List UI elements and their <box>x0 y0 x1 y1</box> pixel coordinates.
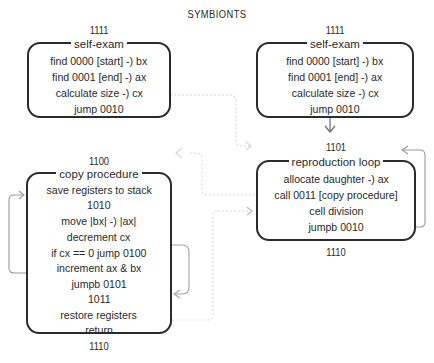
copy-procedure-box: copy procedure save registers to stack 1… <box>26 172 172 334</box>
code-line: if cx == 0 jump 0100 <box>51 246 146 260</box>
dotted-link-selfexam-to-loop <box>170 95 250 146</box>
code-line: calculate size -) cx <box>291 86 378 100</box>
code-line: find 0000 [start] -) bx <box>50 54 147 68</box>
address-label: 1111 <box>38 24 160 36</box>
code-line: find 0001 [end] -) ax <box>288 70 382 84</box>
code-line: return <box>85 323 113 337</box>
code-line: restore registers <box>61 308 137 322</box>
address-label: 1111 <box>268 24 402 36</box>
left-self-exam-box: self-exam find 0000 [start] -) bx find 0… <box>27 42 171 118</box>
address-label: 1101 <box>268 141 404 153</box>
code-line: move |bx| -) |ax| <box>61 214 136 228</box>
right-self-exam-box: self-exam find 0000 [start] -) bx find 0… <box>256 42 414 118</box>
jumpb-loop-connector <box>9 195 26 273</box>
code-line: jumpb 0010 <box>308 220 363 234</box>
code-line: cell division <box>309 204 363 218</box>
code-line: find 0001 [end] -) ax <box>52 70 146 84</box>
dotted-link-return-path <box>172 211 218 320</box>
end-address-label: 1110 <box>38 340 160 352</box>
code-line: find 0000 [start] -) bx <box>286 54 383 68</box>
box-title: copy procedure <box>56 167 141 181</box>
code-line: jump 0010 <box>310 102 359 116</box>
box-title: self-exam <box>307 37 363 51</box>
code-line: allocate daughter -) ax <box>283 172 388 186</box>
code-line: calculate size -) cx <box>55 86 142 100</box>
address-line: 1010 <box>87 198 111 212</box>
address-line: 1011 <box>88 292 111 306</box>
code-line: jump 0010 <box>74 102 123 116</box>
box-title: reproduction loop <box>289 155 384 169</box>
jump-exit-connector <box>172 245 189 294</box>
dotted-link-call-to-copy <box>190 153 256 195</box>
code-line: increment ax & bx <box>57 261 142 275</box>
code-line: save registers to stack <box>46 183 151 197</box>
box-title: self-exam <box>71 37 127 51</box>
code-line: jumpb 0101 <box>71 277 126 291</box>
end-address-label: 1110 <box>268 246 404 258</box>
reproduction-loop-box: reproduction loop allocate daughter -) a… <box>256 160 416 241</box>
arrow-left-icon <box>176 148 182 158</box>
code-line: call 0011 [copy procedure] <box>274 188 397 202</box>
code-line: decrement cx <box>67 230 131 244</box>
